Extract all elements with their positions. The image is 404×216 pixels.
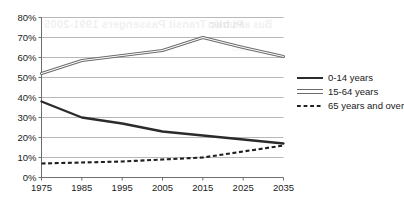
data-series-group (42, 38, 284, 164)
y-axis-tick-label-group: 0%10%20%30%40%50%60%70%80% (17, 12, 37, 183)
y-axis-tick-label: 30% (17, 112, 37, 123)
x-axis-tick-label: 2035 (273, 182, 294, 193)
legend-item-65-years-and-over: 65 years and over (297, 99, 401, 112)
series-line-15-64-years-center (42, 38, 284, 74)
chart-legend: 0-14 years 15-64 years 65 years and over (297, 71, 401, 113)
y-axis-tick-label: 70% (17, 32, 37, 43)
x-axis-tick-label: 2025 (233, 182, 254, 193)
y-axis-tick-label: 20% (17, 132, 37, 143)
legend-swatch-dashed-line-icon (297, 100, 323, 111)
series-line-15-64-years (42, 38, 284, 74)
x-axis-tick-label-group: 1975198519952005201520252035 (31, 182, 294, 193)
x-axis-tick-label: 1975 (31, 182, 52, 193)
legend-item-15-64-years: 15-64 years (297, 85, 401, 98)
x-axis-tick-label: 2005 (152, 182, 173, 193)
y-axis-tick-label: 40% (17, 92, 37, 103)
x-axis-tick-label: 1995 (112, 182, 133, 193)
population-age-structure-chart: Public Transit Passengers 1991-2005 Bus … (0, 0, 404, 216)
y-axis-tick-label: 80% (17, 12, 37, 23)
legend-label: 65 years and over (328, 100, 404, 111)
y-axis-tick-label: 50% (17, 72, 37, 83)
legend-label: 0-14 years (328, 72, 373, 83)
x-axis-tick-label: 2015 (192, 182, 213, 193)
x-axis-tick-label: 1985 (71, 182, 92, 193)
legend-swatch-double-line-icon (297, 86, 323, 97)
legend-item-0-14-years: 0-14 years (297, 71, 401, 84)
y-axis-tick-label: 60% (17, 52, 37, 63)
legend-label: 15-64 years (328, 86, 378, 97)
series-line-65-years-and-over (42, 146, 284, 164)
y-axis-tick-label: 10% (17, 152, 37, 163)
gridline-group (39, 18, 284, 178)
legend-swatch-solid-line-icon (297, 72, 323, 83)
